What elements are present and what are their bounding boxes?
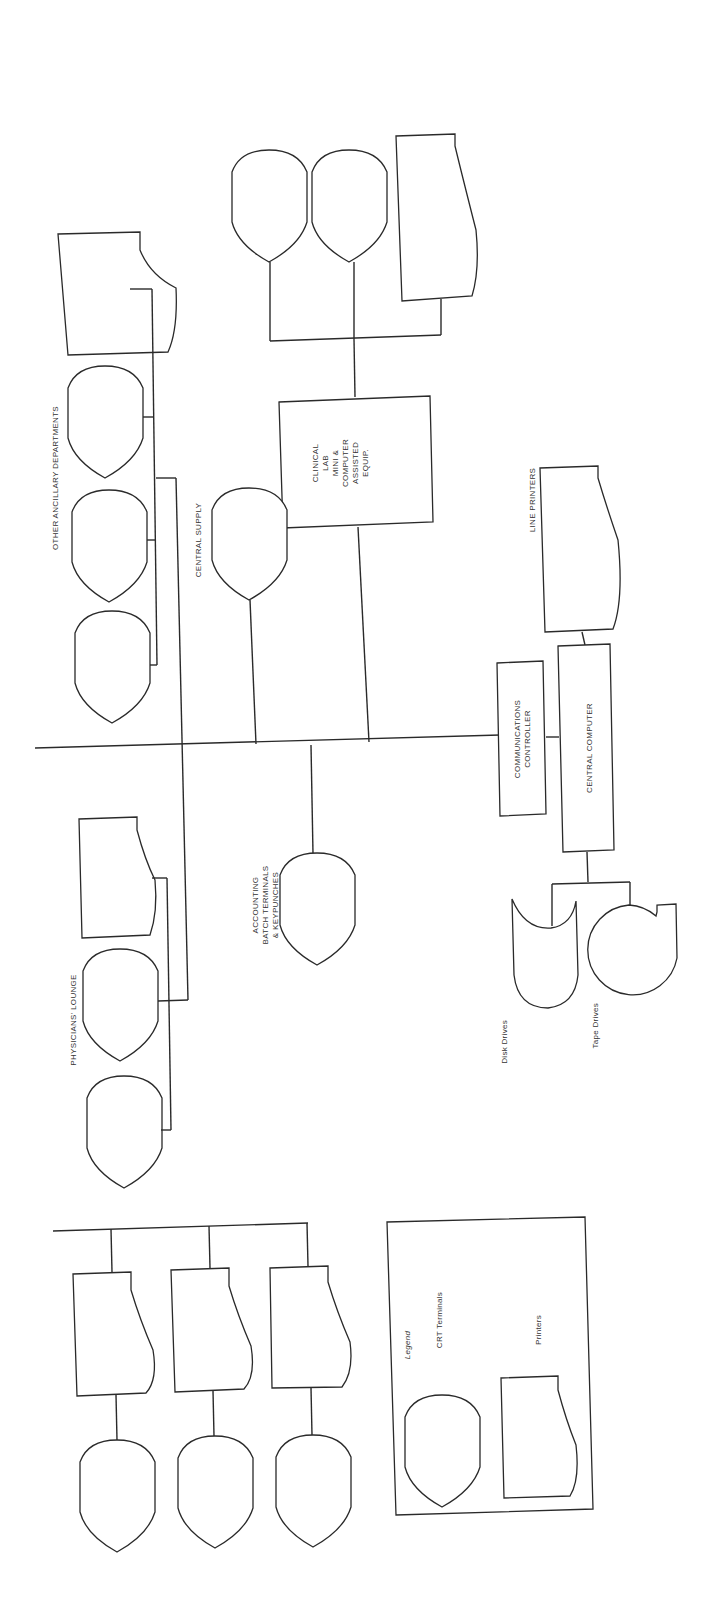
legend-printer-label: Printers xyxy=(534,1315,543,1345)
svg-text:COMMUNICATIONS: COMMUNICATIONS xyxy=(513,700,522,778)
network-diagram: CLINICAL LAB MINI & COMPUTER ASSISTED EQ… xyxy=(0,0,709,1598)
central-supply-label: CENTRAL SUPPLY xyxy=(194,502,203,577)
accounting-label: ACCOUNTING BATCH TERMINALS & KEYPUNCHES xyxy=(251,866,280,945)
crt-terminal-icon xyxy=(280,853,355,965)
accounting-group: ACCOUNTING BATCH TERMINALS & KEYPUNCHES xyxy=(251,745,355,965)
svg-text:LAB: LAB xyxy=(321,455,330,471)
tape-drive-icon xyxy=(588,904,677,995)
printer-icon xyxy=(270,1266,351,1388)
svg-text:EQUIP.: EQUIP. xyxy=(361,449,370,477)
ancillary-label: OTHER ANCILLARY DEPARTMENTS xyxy=(51,406,60,550)
communications-controller-label: COMMUNICATIONS CONTROLLER xyxy=(513,700,532,778)
crt-terminal-icon xyxy=(87,1076,162,1188)
svg-text:BATCH TERMINALS: BATCH TERMINALS xyxy=(261,866,270,945)
crt-terminal-icon xyxy=(232,150,307,262)
legend-crt-label: CRT Terminals xyxy=(435,1292,444,1348)
printer-icon xyxy=(58,232,176,355)
svg-text:MINI &: MINI & xyxy=(331,450,340,477)
crt-terminal-icon xyxy=(83,949,158,1061)
svg-text:ASSISTED: ASSISTED xyxy=(351,442,360,484)
legend: Legend CRT Terminals Printers xyxy=(387,1217,593,1515)
disk-drives-label: Disk Drives xyxy=(500,1020,509,1064)
central-computer-label: CENTRAL COMPUTER xyxy=(585,703,594,793)
svg-text:ACCOUNTING: ACCOUNTING xyxy=(251,877,260,934)
central-computer-group: LINE PRINTERS COMMUNICATIONS CONTROLLER … xyxy=(497,466,677,1064)
crt-terminal-icon xyxy=(80,1440,155,1552)
svg-text:COMPUTER: COMPUTER xyxy=(341,439,350,487)
tape-drives-label: Tape Drives xyxy=(591,1003,600,1049)
crt-terminal-icon xyxy=(68,366,143,478)
crt-terminal-icon xyxy=(212,488,287,600)
crt-terminal-icon xyxy=(178,1436,253,1548)
crt-terminal-icon xyxy=(276,1435,351,1547)
svg-text:CLINICAL: CLINICAL xyxy=(311,444,320,483)
legend-title: Legend xyxy=(403,1331,412,1360)
printer-icon xyxy=(396,134,477,301)
central-supply-group: CENTRAL SUPPLY xyxy=(194,488,287,744)
clinical-lab-group: CLINICAL LAB MINI & COMPUTER ASSISTED EQ… xyxy=(232,134,477,742)
crt-terminal-icon xyxy=(75,611,150,723)
crt-terminal-icon xyxy=(72,490,147,602)
line-printers-label: LINE PRINTERS xyxy=(528,468,537,532)
physicians-lounge-group: PHYSICIANS' LOUNGE xyxy=(69,817,188,1188)
crt-terminal-icon xyxy=(312,150,387,262)
printer-icon xyxy=(79,817,156,938)
station-group xyxy=(53,1223,351,1552)
physicians-lounge-label: PHYSICIANS' LOUNGE xyxy=(69,974,78,1065)
printer-icon xyxy=(540,466,620,632)
svg-text:CONTROLLER: CONTROLLER xyxy=(523,710,532,768)
disk-drive-icon xyxy=(512,899,578,1008)
printer-icon xyxy=(73,1272,154,1396)
svg-text:& KEYPUNCHES: & KEYPUNCHES xyxy=(271,872,280,938)
printer-icon xyxy=(171,1268,252,1392)
main-bus-line xyxy=(35,735,500,748)
